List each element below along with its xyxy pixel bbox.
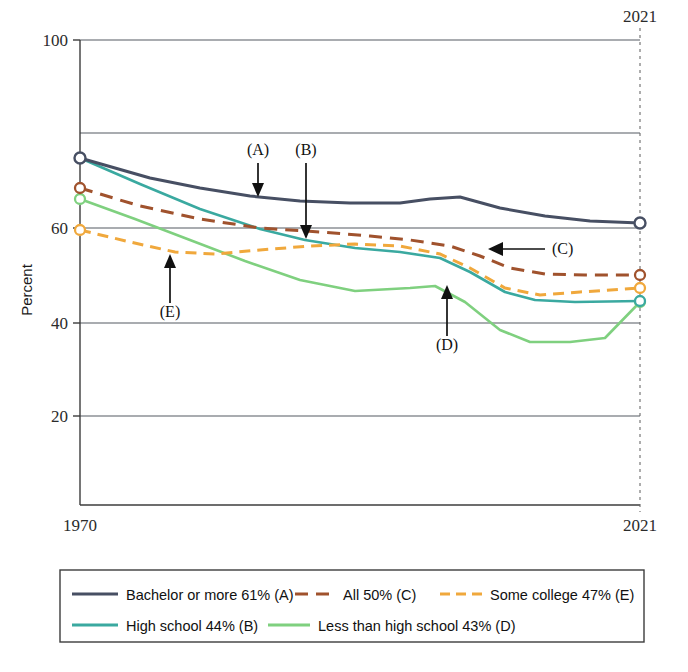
annotation-d-label: (D) [436,336,458,354]
annotation-e-label: (E) [160,303,180,321]
legend-label-some-college: Some college 47% (E) [490,587,634,603]
x-tick-label-1970: 1970 [63,516,97,535]
marker-all-start [75,183,85,193]
y-tick-label-60: 60 [51,219,68,238]
chart-figure: 100 60 40 20 Percent 1970 2021 2021 (A) [0,0,688,672]
y-tick-label-40: 40 [51,314,68,333]
legend-label-all: All 50% (C) [343,587,416,603]
legend: Bachelor or more 61% (A) All 50% (C) Som… [60,570,644,642]
top-right-year-label: 2021 [623,7,657,26]
y-tick-label-20: 20 [51,407,68,426]
y-axis-title: Percent [18,263,35,316]
marker-bachelor-end [635,218,646,229]
x-tick-label-2021: 2021 [623,516,657,535]
marker-some-college-start [75,225,85,235]
legend-label-bachelor: Bachelor or more 61% (A) [126,587,294,603]
legend-label-high-school: High school 44% (B) [126,618,258,634]
y-tick-label-100: 100 [43,31,69,50]
marker-all-end [635,270,645,280]
legend-label-less-than-high-school: Less than high school 43% (D) [318,618,515,634]
marker-high-school-end [635,296,645,306]
marker-bachelor-start [75,153,86,164]
annotation-c-label: (C) [552,240,573,258]
marker-some-college-end [635,283,645,293]
annotation-b-label: (B) [295,141,316,159]
marker-less-than-high-school-start [75,194,85,204]
annotation-a-label: (A) [247,141,269,159]
